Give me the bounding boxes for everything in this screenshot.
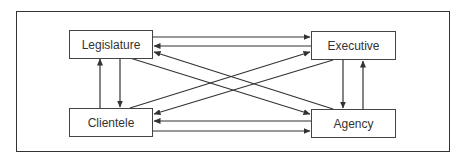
node-label: Legislature bbox=[82, 38, 141, 52]
node-clientele: Clientele bbox=[69, 108, 153, 137]
edge-agency-to-legislature bbox=[154, 52, 333, 109]
edge-legislature-to-agency bbox=[130, 58, 310, 114]
node-label: Agency bbox=[333, 117, 373, 131]
edges-layer bbox=[0, 0, 466, 163]
node-label: Clientele bbox=[88, 116, 135, 130]
edge-executive-to-clientele bbox=[154, 60, 333, 114]
node-label: Executive bbox=[327, 39, 379, 53]
edge-clientele-to-executive bbox=[130, 52, 310, 108]
node-legislature: Legislature bbox=[69, 30, 153, 59]
node-executive: Executive bbox=[311, 31, 396, 60]
node-agency: Agency bbox=[311, 109, 396, 138]
